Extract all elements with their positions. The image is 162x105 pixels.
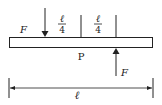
beam-label: P: [78, 51, 85, 62]
svg-text:4: 4: [59, 25, 65, 35]
force-up-arrow: [113, 48, 120, 76]
segment-length-2: ℓ 4: [94, 13, 102, 35]
beam: [10, 38, 153, 48]
svg-text:ℓ: ℓ: [60, 13, 64, 24]
beam-diagram: F ℓ 4 ℓ 4 P F ℓ: [0, 0, 162, 105]
force-up-label: F: [120, 67, 129, 78]
svg-text:4: 4: [95, 25, 101, 35]
force-down-label: F: [19, 24, 28, 35]
force-down-arrow: [42, 8, 49, 37]
length-label: ℓ: [75, 89, 80, 102]
length-dimension: [9, 78, 153, 98]
segment-length-1: ℓ 4: [58, 13, 66, 35]
svg-text:ℓ: ℓ: [96, 13, 100, 24]
